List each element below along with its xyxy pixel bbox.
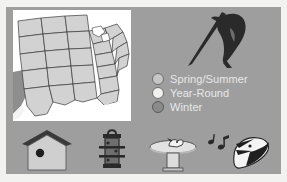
legend-label-winter: Winter — [170, 102, 202, 113]
legend: Spring/Summer Year-Round Winter — [152, 72, 280, 114]
legend-swatch-year-round — [152, 87, 164, 99]
infographic-root: Spring/Summer Year-Round Winter — [0, 0, 287, 182]
legend-label-year-round: Year-Round — [170, 88, 229, 99]
range-map — [13, 10, 131, 121]
legend-swatch-winter — [152, 101, 164, 113]
legend-item-year-round[interactable]: Year-Round — [152, 86, 280, 100]
legend-swatch-spring-summer — [152, 73, 164, 85]
bird-eye — [248, 144, 251, 147]
birdbath-icon — [147, 126, 199, 172]
legend-item-spring-summer[interactable]: Spring/Summer — [152, 72, 280, 86]
woodpecker-on-branch-icon — [182, 8, 256, 70]
singing-bird-icon — [206, 126, 270, 172]
music-notes — [207, 134, 229, 150]
birdhouse-icon — [20, 126, 74, 172]
legend-item-winter[interactable]: Winter — [152, 100, 280, 114]
bird-feeder-icon — [95, 126, 129, 172]
legend-label-spring-summer: Spring/Summer — [170, 74, 248, 85]
bird-attracting-icons — [10, 126, 277, 172]
